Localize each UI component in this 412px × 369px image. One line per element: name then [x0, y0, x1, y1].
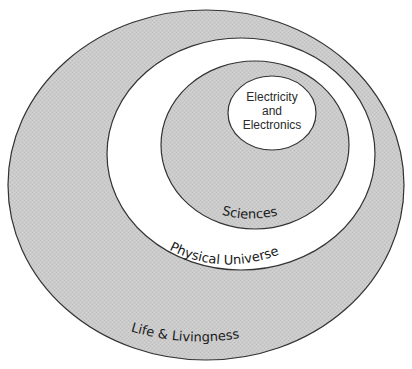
region-electricity-and-electronics: Electricity and Electronics — [228, 76, 316, 150]
electricity-label-line-3: Electronics — [243, 118, 302, 132]
electricity-label-line-2: and — [262, 104, 282, 118]
electricity-label-line-1: Electricity — [246, 90, 297, 104]
nested-diagram: Electricity and Electronics Sciences Phy… — [0, 0, 412, 369]
